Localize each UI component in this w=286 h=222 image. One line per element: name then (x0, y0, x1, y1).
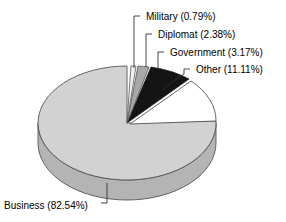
leader-line-diplomat (146, 34, 152, 67)
pie-chart-figure: Military (0.79%) Diplomat (2.38%) Govern… (0, 0, 286, 222)
slice-label-other: Other (11.11%) (196, 64, 263, 75)
leader-line-government (158, 52, 164, 69)
leader-line-military (134, 16, 140, 68)
pie-top-face (38, 66, 216, 180)
leader-line-other-tick (184, 69, 190, 74)
slice-label-military: Military (0.79%) (146, 11, 215, 22)
slice-label-diplomat: Diplomat (2.38%) (158, 29, 235, 40)
pie-chart-graphic (0, 0, 286, 222)
slice-label-business: Business (82.54%) (4, 200, 88, 211)
slice-label-government: Government (3.17%) (170, 47, 263, 58)
